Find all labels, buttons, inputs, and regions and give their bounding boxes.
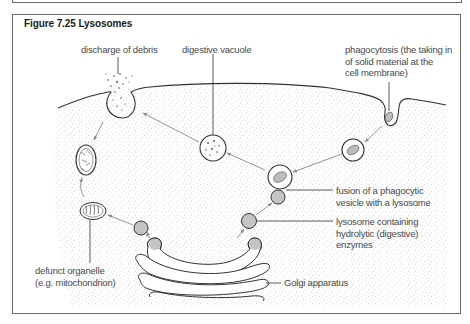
lysosome-right bbox=[242, 214, 257, 229]
label-golgi-apparatus: Golgi apparatus bbox=[284, 277, 348, 289]
label-phagocytosis: phagocytosis (the taking in of solid mat… bbox=[345, 44, 452, 79]
label-lysosome: lysosome containing hydrolytic (digestiv… bbox=[336, 216, 418, 251]
phagocytic-vesicle bbox=[342, 139, 364, 161]
lysosome-left bbox=[134, 221, 148, 235]
digestive-vacuole bbox=[200, 135, 226, 161]
defunct-mitochondrion bbox=[80, 203, 106, 220]
label-fusion: fusion of a phagocytic vesicle with a ly… bbox=[336, 185, 431, 208]
residual-body-vesicle bbox=[76, 145, 96, 175]
label-defunct-organelle: defunct organelle (e.g. mitochondrion) bbox=[35, 265, 115, 288]
label-discharge-of-debris: discharge of debris bbox=[81, 44, 157, 56]
label-digestive-vacuole: digestive vacuole bbox=[182, 44, 251, 56]
